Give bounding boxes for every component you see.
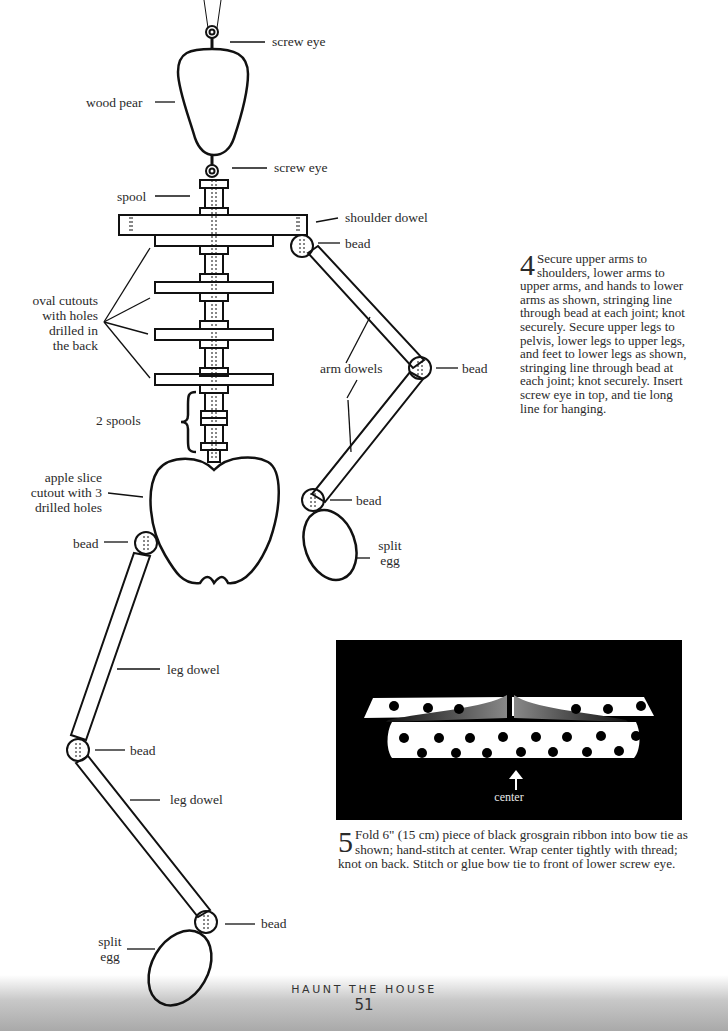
label-wood-pear: wood pear	[86, 95, 143, 110]
label-bead-knee: bead	[130, 743, 155, 758]
brace-icon	[181, 392, 196, 452]
screw-eye-top-icon	[206, 26, 218, 48]
label-leg-dowel-upper: leg dowel	[167, 662, 220, 677]
footer-page-number: 51	[0, 996, 728, 1014]
arrow-up-icon	[509, 770, 523, 790]
step-5-number: 5	[338, 829, 353, 855]
skeleton-diagram	[0, 0, 728, 1031]
label-arm-dowels: arm dowels	[320, 361, 383, 376]
label-two-spools: 2 spools	[96, 413, 141, 428]
step-4-instructions: 4 Secure upper arms to shoulders, lower …	[520, 252, 688, 415]
label-apple-slice: apple slice cutout with 3 drilled holes	[20, 470, 102, 515]
label-screw-eye-bottom: screw eye	[274, 160, 328, 175]
footer-chapter-title: HAUNT THE HOUSE	[0, 983, 728, 996]
label-screw-eye-top: screw eye	[272, 34, 326, 49]
label-bead-hip: bead	[73, 536, 98, 551]
label-center: center	[336, 790, 682, 805]
label-bead-wrist: bead	[356, 493, 381, 508]
label-bead-ankle: bead	[261, 916, 286, 931]
label-shoulder-dowel: shoulder dowel	[345, 210, 428, 225]
label-split-egg-hand: split egg	[372, 538, 408, 568]
label-bead-shoulder: bead	[345, 236, 370, 251]
step-4-number: 4	[520, 253, 535, 277]
wood-pear-shape	[178, 49, 248, 155]
label-oval-cutouts: oval cutouts with holes drilled in the b…	[20, 293, 98, 353]
apple-slice-shape	[151, 457, 279, 583]
label-spool: spool	[117, 189, 146, 204]
step-5-instructions: 5 Fold 6" (15 cm) piece of black grosgra…	[338, 828, 688, 872]
bow-tie-figure: center	[336, 640, 682, 820]
step-4-text: Secure upper arms to shoulders, lower ar…	[520, 251, 686, 416]
label-leg-dowel-lower: leg dowel	[170, 792, 223, 807]
step-5-text: Fold 6" (15 cm) piece of black grosgrain…	[338, 827, 688, 871]
label-bead-elbow: bead	[462, 361, 487, 376]
label-split-egg-foot: split egg	[94, 934, 126, 964]
screw-eye-bottom-icon	[206, 165, 218, 177]
